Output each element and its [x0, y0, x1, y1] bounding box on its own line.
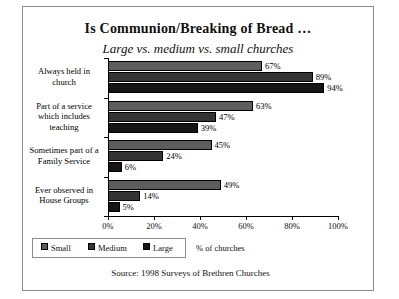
- bar-group: 45%24%6%: [108, 137, 338, 177]
- bar-large: [108, 123, 198, 133]
- bar-medium: [108, 112, 216, 122]
- bar-large: [108, 83, 324, 93]
- legend-label: Medium: [98, 243, 127, 253]
- bar-group: 49%14%5%: [108, 177, 338, 217]
- category-label: Part of a servicewhich includesteaching: [24, 101, 104, 133]
- x-axis-tick: [338, 216, 339, 220]
- legend-item-large[interactable]: Large: [143, 243, 173, 253]
- bar-value-label: 14%: [143, 191, 159, 201]
- x-axis-tick: [292, 216, 293, 220]
- x-axis-label: % of churches: [196, 243, 245, 253]
- bar-medium: [108, 191, 140, 201]
- x-axis-line: [108, 216, 338, 217]
- y-axis-tick: [104, 58, 108, 59]
- bar-small: [108, 61, 262, 71]
- bar-small: [108, 101, 253, 111]
- x-axis-tick-label: 40%: [180, 221, 220, 231]
- legend-item-medium[interactable]: Medium: [88, 243, 127, 253]
- bar-value-label: 24%: [166, 151, 182, 161]
- x-axis-tick-label: 0%: [88, 221, 128, 231]
- legend-item-small[interactable]: Small: [41, 243, 71, 253]
- bar-small: [108, 140, 212, 150]
- x-axis-tick-label: 60%: [226, 221, 266, 231]
- x-axis-tick-label: 100%: [318, 221, 358, 231]
- chart-legend: SmallMediumLarge: [32, 238, 186, 258]
- legend-swatch: [41, 243, 48, 250]
- bar-value-label: 47%: [219, 112, 235, 122]
- bar-value-label: 5%: [123, 202, 134, 212]
- bar-large: [108, 162, 122, 172]
- bar-value-label: 94%: [327, 83, 343, 93]
- legend-swatch: [88, 243, 95, 250]
- x-axis-tick: [246, 216, 247, 220]
- bar-large: [108, 202, 120, 212]
- bar-group: 63%47%39%: [108, 98, 338, 138]
- bar-value-label: 6%: [125, 162, 136, 172]
- legend-label: Small: [51, 243, 71, 253]
- chart-title: Is Communion/Breaking of Bread …: [23, 21, 373, 37]
- bar-medium: [108, 72, 313, 82]
- bar-medium: [108, 151, 163, 161]
- bar-value-label: 45%: [215, 140, 231, 150]
- bar-value-label: 63%: [256, 101, 272, 111]
- source-note: Source: 1998 Surveys of Brethren Churche…: [0, 268, 399, 278]
- legend-swatch: [143, 243, 150, 250]
- category-label: Ever observed inHouse Groups: [24, 185, 104, 206]
- y-axis-tick: [104, 137, 108, 138]
- bar-group: 67%89%94%: [108, 58, 338, 98]
- bar-value-label: 67%: [265, 61, 281, 71]
- y-axis-tick: [104, 98, 108, 99]
- y-axis-tick: [104, 177, 108, 178]
- x-axis-tick-label: 80%: [272, 221, 312, 231]
- plot-area: 67%89%94%63%47%39%45%24%6%49%14%5%: [108, 58, 338, 216]
- x-axis-tick: [200, 216, 201, 220]
- category-label: Always held inchurch: [24, 66, 104, 87]
- bar-small: [108, 180, 221, 190]
- chart-subtitle: Large vs. medium vs. small churches: [23, 41, 373, 57]
- bar-value-label: 49%: [224, 180, 240, 190]
- category-label: Sometimes part of aFamily Service: [24, 145, 104, 166]
- bar-value-label: 39%: [201, 123, 217, 133]
- x-axis-tick-label: 20%: [134, 221, 174, 231]
- legend-label: Large: [153, 243, 173, 253]
- x-axis-tick: [108, 216, 109, 220]
- bar-value-label: 89%: [316, 72, 332, 82]
- x-axis-tick: [154, 216, 155, 220]
